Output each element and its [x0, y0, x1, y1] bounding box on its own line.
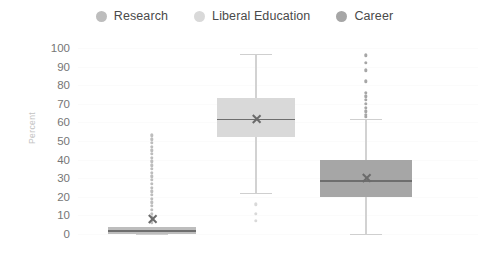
outlier-point [364, 69, 367, 72]
outlier-point [364, 80, 367, 83]
box-plot-chart: ResearchLiberal EducationCareer Percent … [0, 0, 489, 257]
whisker-cap-lower [350, 234, 382, 235]
plot-area: Percent 1009080706050403020100 [0, 0, 489, 257]
outlier-point [364, 61, 367, 64]
mean-marker-x-icon [361, 173, 372, 184]
box-series-career[interactable] [0, 0, 489, 257]
whisker-cap-upper [350, 119, 382, 120]
outlier-point [364, 54, 367, 57]
